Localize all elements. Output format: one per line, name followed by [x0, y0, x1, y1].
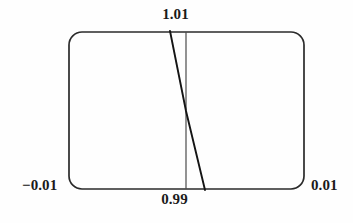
plot-svg [68, 31, 305, 190]
x-axis-min-label: −0.01 [22, 177, 57, 194]
y-axis-max-label: 1.01 [0, 6, 352, 23]
x-axis-max-label: 0.01 [311, 177, 338, 194]
plot-frame [68, 31, 305, 190]
data-curve [170, 31, 205, 190]
figure-canvas: 1.01 0.99 −0.01 0.01 [0, 0, 353, 223]
